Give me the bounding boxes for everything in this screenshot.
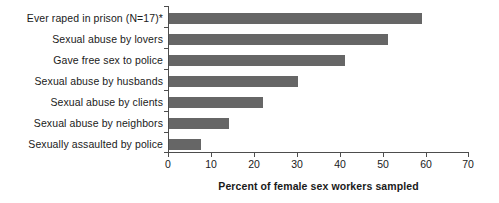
plot-area: Ever raped in prison (N=17)* Sexual abus… (0, 0, 499, 203)
x-axis-tick (297, 153, 298, 157)
category-label: Sexual abuse by lovers (52, 29, 163, 50)
chart-row: Ever raped in prison (N=17)* (0, 8, 499, 29)
category-label: Sexual abuse by husbands (35, 71, 164, 92)
category-label: Ever raped in prison (N=17)* (27, 8, 163, 29)
x-axis-tick (168, 153, 169, 157)
x-axis-tick-label: 10 (196, 158, 226, 170)
bar-chart: Ever raped in prison (N=17)* Sexual abus… (0, 0, 499, 203)
x-axis-tick (254, 153, 255, 157)
x-axis-tick (426, 153, 427, 157)
chart-row: Sexual abuse by husbands (0, 71, 499, 92)
bar-segment (169, 34, 388, 45)
x-axis-tick-label: 70 (453, 158, 483, 170)
bar-segment (169, 118, 229, 129)
category-label: Sexually assaulted by police (28, 134, 163, 155)
x-axis-tick (383, 153, 384, 157)
chart-row: Gave free sex to police (0, 50, 499, 71)
category-label: Gave free sex to police (53, 50, 163, 71)
x-axis-line (168, 152, 469, 153)
bar-segment (169, 97, 263, 108)
y-axis-line (168, 6, 169, 152)
chart-row: Sexual abuse by lovers (0, 29, 499, 50)
x-axis-tick-label: 60 (411, 158, 441, 170)
chart-row: Sexual abuse by neighbors (0, 113, 499, 134)
x-axis-title: Percent of female sex workers sampled (168, 180, 469, 192)
chart-row: Sexual abuse by clients (0, 92, 499, 113)
bar-segment (169, 55, 345, 66)
x-axis-tick-label: 50 (368, 158, 398, 170)
x-axis-tick (340, 153, 341, 157)
x-axis-tick (468, 153, 469, 157)
bar-segment (169, 76, 298, 87)
x-axis-tick-label: 40 (325, 158, 355, 170)
category-label: Sexual abuse by clients (50, 92, 163, 113)
x-axis-tick (211, 153, 212, 157)
x-axis-tick-label: 30 (282, 158, 312, 170)
bar-segment (169, 139, 201, 150)
x-axis-tick-label: 20 (239, 158, 269, 170)
category-label: Sexual abuse by neighbors (34, 113, 163, 134)
x-axis-tick-label: 0 (153, 158, 183, 170)
bar-segment (169, 13, 422, 24)
